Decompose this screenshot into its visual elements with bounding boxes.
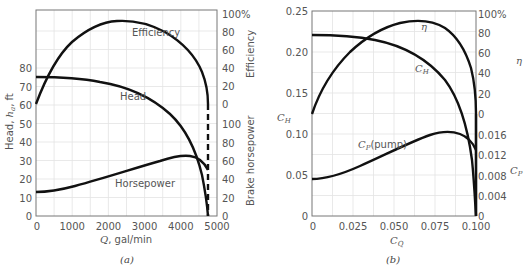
chart-a-x-ticks: 0 1000 2000 3000 4000 5000 [34,221,230,232]
svg-text:0.10: 0.10 [286,129,308,140]
svg-text:20: 20 [222,81,235,92]
chart-b-left-axis-label: CH [277,112,292,125]
svg-text:40: 40 [222,63,235,74]
svg-text:0.050: 0.050 [380,221,409,232]
chart-b-eta-label: η [421,21,427,32]
svg-text:100: 100 [222,119,241,130]
svg-text:70: 70 [19,82,32,93]
chart-a: 0 10 20 30 40 50 60 70 80 Head, ha, ft 1… [4,9,256,265]
svg-text:60: 60 [222,45,235,56]
svg-text:40: 40 [478,68,491,79]
svg-text:2000: 2000 [96,221,121,232]
svg-text:80: 80 [478,28,491,39]
svg-text:20: 20 [19,174,32,185]
chart-b-left-ticks: 0 0.05 0.10 0.15 0.20 0.25 [286,6,308,222]
chart-a-caption: (a) [120,254,134,265]
svg-text:0.012: 0.012 [478,150,507,161]
chart-a-efficiency-axis-label: Efficiency [245,30,256,78]
svg-text:0.100: 0.100 [462,221,491,232]
chart-b-caption: (b) [386,254,400,265]
chart-a-head-label: Head [120,91,146,102]
svg-text:0.075: 0.075 [421,221,450,232]
svg-text:0.25: 0.25 [286,6,308,17]
chart-a-left-axis-label: Head, ha, ft [4,93,17,150]
svg-text:0.004: 0.004 [478,191,507,202]
chart-a-efficiency-label: Efficiency [132,27,180,38]
chart-b-grid [312,11,476,216]
chart-b-x-ticks: 0 0.025 0.050 0.075 0.100 [310,221,491,232]
chart-a-bhp-ticks: 100 80 60 40 20 0 [222,119,241,222]
svg-text:20: 20 [478,89,491,100]
svg-text:0: 0 [310,221,316,232]
svg-text:0.016: 0.016 [478,130,507,141]
chart-a-x-axis-label: Q, gal/min [100,234,152,245]
svg-text:100%: 100% [222,9,251,20]
chart-b-cp-ticks: 0.016 0.012 0.008 0.004 0 [478,130,507,222]
svg-text:0.025: 0.025 [339,221,368,232]
chart-b-ch-label: CH [415,63,430,76]
svg-text:0.008: 0.008 [478,171,507,182]
svg-text:10: 10 [19,193,32,204]
chart-b-eta-axis-label: η [516,55,522,66]
svg-text:80: 80 [222,138,235,149]
svg-text:20: 20 [222,193,235,204]
svg-text:1000: 1000 [59,221,84,232]
svg-text:0.20: 0.20 [286,47,308,58]
svg-text:40: 40 [222,174,235,185]
svg-text:0: 0 [302,211,308,222]
svg-text:30: 30 [19,156,32,167]
svg-text:0.15: 0.15 [286,88,308,99]
chart-a-left-ticks: 0 10 20 30 40 50 60 70 80 [19,63,32,222]
svg-text:60: 60 [478,48,491,59]
svg-text:0: 0 [222,99,228,110]
svg-text:60: 60 [222,156,235,167]
chart-b-cp-axis-label: CP [510,165,523,178]
svg-text:80: 80 [222,27,235,38]
chart-b-eta-ticks: 100% 80 60 40 20 0 [478,9,507,120]
svg-text:50: 50 [19,119,32,130]
chart-a-horsepower-label: Horsepower [115,178,176,189]
chart-b-x-axis-label: CQ [390,235,404,248]
chart-b-cp-label: CP(pump) [358,139,407,152]
svg-text:60: 60 [19,100,32,111]
svg-text:80: 80 [19,63,32,74]
svg-text:0: 0 [34,221,40,232]
svg-text:40: 40 [19,137,32,148]
svg-text:0.05: 0.05 [286,170,308,181]
svg-text:3000: 3000 [132,221,157,232]
figure: 0 10 20 30 40 50 60 70 80 Head, ha, ft 1… [0,0,530,269]
svg-text:100%: 100% [478,9,507,20]
chart-a-bhp-axis-label: Brake horsepower [245,114,256,206]
svg-text:4000: 4000 [168,221,193,232]
chart-b: 0 0.05 0.10 0.15 0.20 0.25 CH 100% 80 60… [277,6,523,265]
svg-text:0: 0 [478,109,484,120]
svg-text:5000: 5000 [204,221,229,232]
svg-text:0: 0 [26,211,32,222]
